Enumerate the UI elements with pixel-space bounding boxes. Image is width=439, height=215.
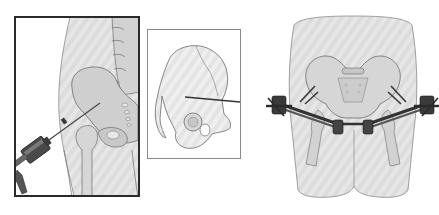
- middle-panel-hemipelvis: [148, 30, 241, 159]
- fixator-clamp-left: [266, 96, 292, 116]
- fixator-clamp-right: [414, 96, 439, 116]
- drill-handle: [15, 170, 27, 194]
- left-panel-lateral-hip: [7, 17, 140, 197]
- pelvic-fixator-illustration: [0, 0, 439, 215]
- right-panel-anterior-fixator: [266, 16, 439, 197]
- lumbar-vertebra: [342, 68, 364, 74]
- obturator-foramen: [200, 124, 210, 136]
